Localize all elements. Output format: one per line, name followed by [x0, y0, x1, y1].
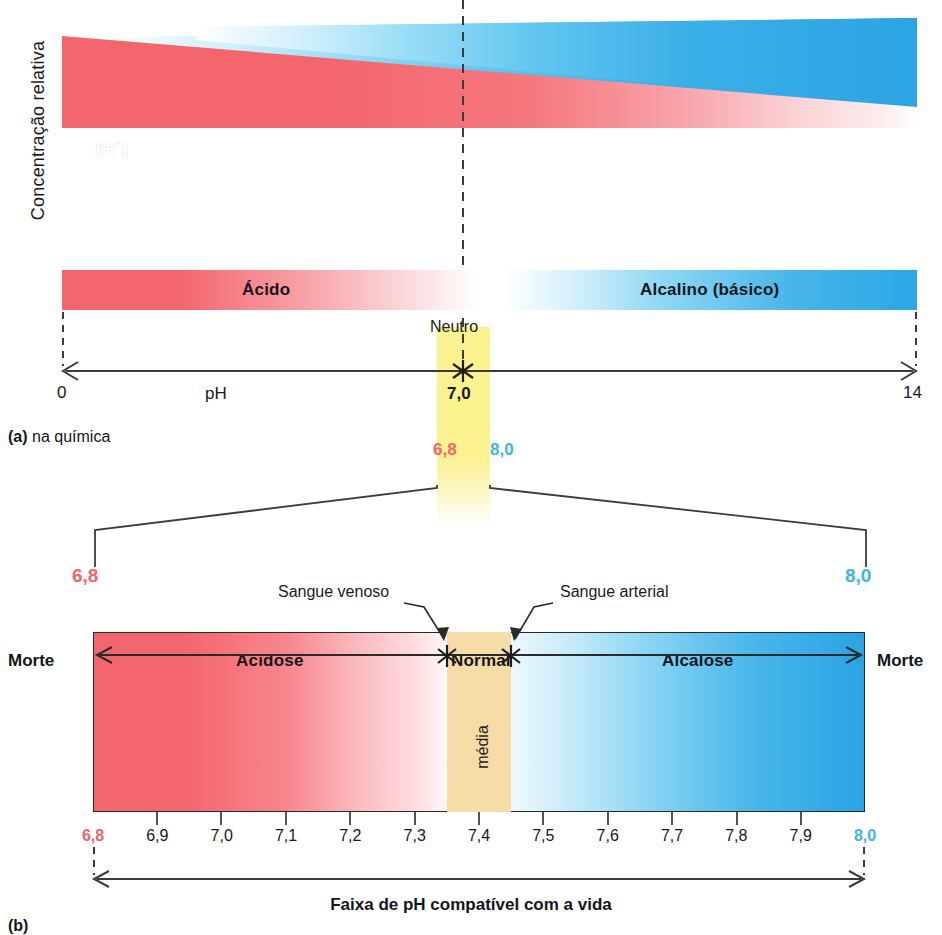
ph-tick-label: 7,4 — [456, 827, 502, 845]
ph-tick-label: 6,8 — [70, 827, 116, 845]
ph-tick-label: 7,1 — [263, 827, 309, 845]
life-range-caption: Faixa de pH compatível com a vida — [0, 895, 942, 915]
neutral-guide — [0, 0, 942, 455]
ph-tick-label: 7,0 — [199, 827, 245, 845]
ph-tick-label: 6,9 — [134, 827, 180, 845]
ph-tick-label: 7,3 — [392, 827, 438, 845]
panel-b-caption: (b) — [8, 917, 28, 935]
ph-tick-label: 7,5 — [520, 827, 566, 845]
panel-a-chemistry: Concentração relativa — [0, 0, 942, 455]
arterial-blood-label: Sangue arterial — [560, 583, 669, 601]
ph-tick-label: 7,9 — [778, 827, 824, 845]
ph-tick-label: 7,2 — [327, 827, 373, 845]
ph-tick-label: 8,0 — [842, 827, 888, 845]
panel-b-blood: 6,8 8,0 Acidose Normal Alcalose média Mo… — [0, 455, 942, 921]
ph-tick-label: 7,8 — [713, 827, 759, 845]
ph-tick-label: 7,6 — [585, 827, 631, 845]
ph-tick-label: 7,7 — [649, 827, 695, 845]
venous-blood-label: Sangue venoso — [278, 583, 389, 601]
bar-annotations — [0, 455, 942, 921]
